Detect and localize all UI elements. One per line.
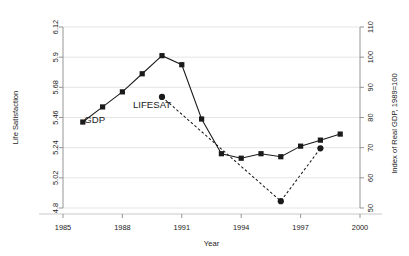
datapoint-gdp-5 [179, 62, 184, 67]
datapoint-gdp-9 [258, 151, 263, 156]
datapoint-gdp-13 [338, 131, 343, 136]
y-axis-left-title: Life Satisfaction [11, 91, 20, 145]
y-axis-right-ticks: 5060708090100110 [360, 21, 375, 212]
y2-tick-label-5: 100 [366, 51, 375, 63]
datapoint-gdp-3 [140, 71, 145, 76]
x-tick-label-4: 1997 [292, 223, 308, 232]
axis-titles-group: YearLife SatisfactionIndex of Real GDP, … [11, 73, 399, 248]
y-tick-label-3: 5.46 [51, 110, 60, 124]
x-axis-title: Year [204, 239, 220, 248]
x-tick-label-2: 1991 [174, 223, 190, 232]
y2-tick-label-6: 110 [366, 21, 375, 33]
x-tick-label-1: 1988 [114, 223, 130, 232]
y-axis-right-title: Index of Real GDP, 1989=100 [390, 73, 399, 174]
series-label-lifesat: LIFESAT [133, 99, 171, 110]
data-series-group [80, 53, 343, 204]
series-annotations: GDPLIFESAT [84, 99, 171, 125]
datapoint-gdp-1 [100, 104, 105, 109]
y2-tick-label-3: 80 [366, 113, 375, 121]
chart-canvas: 198519881991199419972000 4.85.025.245.46… [0, 0, 409, 256]
y-tick-label-6: 6.12 [51, 20, 60, 34]
x-tick-label-5: 2000 [352, 223, 368, 232]
datapoint-gdp-10 [278, 154, 283, 159]
series-line-lifesat [162, 97, 320, 201]
datapoint-gdp-2 [120, 89, 125, 94]
y-tick-label-5: 5.9 [51, 52, 60, 62]
datapoint-lifesat-1 [278, 198, 284, 204]
y-tick-label-1: 5.02 [51, 171, 60, 185]
y-tick-label-2: 5.24 [51, 140, 60, 154]
datapoint-lifesat-2 [317, 145, 323, 151]
y2-tick-label-0: 50 [366, 204, 375, 212]
gridlines-group [63, 27, 360, 208]
x-axis-ticks: 198519881991199419972000 [55, 214, 368, 232]
x-tick-label-0: 1985 [55, 223, 71, 232]
y-axis-left-ticks: 4.85.025.245.465.685.96.12 [51, 20, 63, 213]
datapoint-gdp-6 [199, 116, 204, 121]
y-tick-label-4: 5.68 [51, 80, 60, 94]
y2-tick-label-1: 60 [366, 174, 375, 182]
series-line-gdp [83, 56, 340, 159]
y2-tick-label-4: 90 [366, 83, 375, 91]
datapoint-gdp-11 [298, 144, 303, 149]
datapoint-gdp-4 [159, 53, 164, 58]
datapoint-gdp-7 [219, 151, 224, 156]
y-tick-label-0: 4.8 [51, 203, 60, 213]
datapoint-gdp-12 [318, 138, 323, 143]
x-tick-label-3: 1994 [233, 223, 249, 232]
datapoint-gdp-8 [239, 156, 244, 161]
chart-figure: 198519881991199419972000 4.85.025.245.46… [0, 0, 409, 256]
series-label-gdp: GDP [84, 114, 105, 125]
y2-tick-label-2: 70 [366, 144, 375, 152]
